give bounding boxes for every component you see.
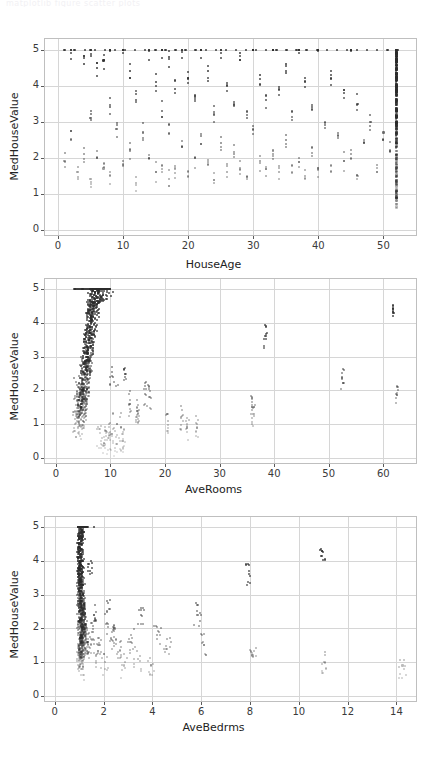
data-point bbox=[278, 167, 280, 169]
y-tick-mark bbox=[41, 50, 44, 51]
plot-area-3 bbox=[44, 516, 417, 702]
data-point bbox=[311, 152, 313, 154]
data-point bbox=[138, 409, 140, 411]
data-point bbox=[137, 623, 139, 625]
data-point bbox=[99, 432, 101, 434]
x-tick-label: 10 bbox=[279, 706, 319, 717]
data-point bbox=[196, 610, 198, 612]
data-point bbox=[169, 637, 171, 639]
gridline-horizontal bbox=[45, 158, 416, 159]
x-tick-label: 2 bbox=[84, 706, 124, 717]
data-point bbox=[350, 50, 352, 52]
y-axis-label-1: MedHouseValue bbox=[8, 89, 21, 185]
data-point bbox=[181, 57, 183, 59]
data-point bbox=[251, 417, 253, 419]
data-point bbox=[213, 121, 215, 123]
data-point bbox=[129, 399, 131, 401]
data-point bbox=[96, 75, 98, 77]
data-point bbox=[103, 54, 105, 56]
data-point bbox=[83, 153, 85, 155]
data-point bbox=[120, 654, 122, 656]
data-point bbox=[168, 58, 170, 60]
data-point bbox=[84, 352, 86, 354]
data-point bbox=[265, 168, 267, 170]
x-tick-mark bbox=[123, 236, 124, 239]
data-point bbox=[220, 149, 222, 151]
data-point bbox=[129, 403, 131, 405]
data-point bbox=[395, 207, 397, 209]
gridline-vertical bbox=[318, 39, 319, 235]
data-point bbox=[76, 396, 78, 398]
data-point bbox=[95, 611, 97, 613]
data-point bbox=[376, 171, 378, 173]
data-point bbox=[233, 105, 235, 107]
data-point bbox=[88, 657, 90, 659]
data-point bbox=[291, 165, 293, 167]
data-point bbox=[92, 338, 94, 340]
data-point bbox=[115, 128, 117, 130]
gridline-vertical bbox=[220, 279, 221, 463]
data-point bbox=[155, 625, 157, 627]
gridline-vertical bbox=[165, 279, 166, 463]
data-point bbox=[99, 653, 101, 655]
data-point bbox=[226, 176, 228, 178]
data-point bbox=[356, 93, 358, 95]
x-axis-label-3: AveBedrms bbox=[0, 721, 427, 734]
data-point bbox=[194, 167, 196, 169]
data-point bbox=[83, 653, 85, 655]
data-point bbox=[187, 439, 189, 441]
data-point bbox=[120, 677, 122, 679]
data-point bbox=[259, 83, 261, 85]
data-point bbox=[75, 436, 77, 438]
x-tick-label: 20 bbox=[168, 240, 208, 251]
data-point bbox=[90, 49, 92, 51]
x-tick-mark bbox=[348, 702, 349, 705]
data-point bbox=[95, 654, 97, 656]
data-point bbox=[104, 49, 106, 51]
data-point bbox=[115, 436, 117, 438]
data-point bbox=[265, 175, 267, 177]
data-point bbox=[106, 622, 108, 624]
data-point bbox=[95, 666, 97, 668]
data-point bbox=[95, 662, 97, 664]
scatter-panel-averooms: MedHouseValue AveRooms 01020304050600123… bbox=[0, 270, 427, 495]
data-point bbox=[251, 654, 253, 656]
data-point bbox=[116, 451, 118, 453]
data-point bbox=[112, 629, 114, 631]
data-point bbox=[95, 660, 97, 662]
data-point bbox=[82, 542, 84, 544]
data-point bbox=[129, 77, 131, 79]
data-point bbox=[341, 378, 343, 380]
data-point bbox=[124, 441, 126, 443]
data-point bbox=[82, 668, 84, 670]
data-point bbox=[161, 165, 163, 167]
data-point bbox=[226, 90, 228, 92]
data-point bbox=[88, 339, 90, 341]
y-tick-label: 2 bbox=[13, 621, 39, 632]
data-point bbox=[181, 415, 183, 417]
data-point bbox=[395, 203, 397, 205]
x-tick-label: 0 bbox=[38, 240, 78, 251]
data-point bbox=[311, 104, 313, 106]
data-point bbox=[142, 122, 144, 124]
gridline-horizontal bbox=[45, 50, 416, 51]
data-point bbox=[121, 664, 123, 666]
data-point bbox=[207, 65, 209, 67]
data-point bbox=[91, 567, 93, 569]
data-point bbox=[63, 49, 65, 51]
data-point bbox=[350, 149, 352, 151]
data-point bbox=[285, 134, 287, 136]
gridline-vertical bbox=[56, 279, 57, 463]
y-tick-label: 2 bbox=[13, 383, 39, 394]
data-point bbox=[92, 638, 94, 640]
x-tick-mark bbox=[274, 464, 275, 467]
data-point bbox=[80, 543, 82, 545]
data-point bbox=[83, 427, 85, 429]
data-point bbox=[89, 636, 91, 638]
data-point bbox=[249, 649, 251, 651]
y-axis-label-3: MedHouseValue bbox=[8, 567, 21, 663]
data-point bbox=[298, 52, 300, 54]
x-tick-mark bbox=[318, 236, 319, 239]
data-point bbox=[77, 548, 79, 550]
data-point bbox=[220, 57, 222, 59]
